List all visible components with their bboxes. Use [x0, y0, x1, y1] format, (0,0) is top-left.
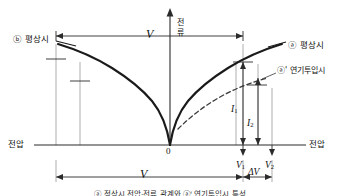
y-axis-label-char-2: 류 [175, 28, 185, 38]
curve-left-normal [58, 44, 170, 145]
bottom-v-dimension-arrow [56, 160, 243, 182]
curve-right-normal [170, 44, 282, 145]
curve-label-left-normal: ⓑ 평상시 [13, 35, 49, 44]
figure-caption: ⓐ 정상시 전압·전류 관계와 ⓐ' 연기투입시 특성 [0, 188, 340, 196]
tick-label-v1-sub: 1 [242, 163, 245, 170]
x-axis-label-voltage-left: 전압 [8, 140, 24, 149]
dimension-label-delta-v: ΔV [248, 168, 259, 178]
vi-characteristic-figure: 전 류 전압 전압 0 ⓑ 평상시 ⓐ 평상시 ⓐ' 연기투입시 V V ΔV … [0, 0, 340, 196]
guide-lines [56, 44, 272, 145]
smoke-label-leader [262, 73, 276, 79]
dimension-label-i2-sub: 2 [250, 121, 253, 128]
figure-canvas [0, 0, 340, 196]
x-axis-label-voltage-right: 전압 [309, 140, 325, 149]
y-axis-label-char-1: 전 [175, 18, 185, 28]
dimension-label-i1: I1 [231, 99, 237, 115]
curve-label-right-smoke: ⓐ' 연기투입시 [277, 67, 325, 75]
dimension-label-i2: I2 [247, 113, 253, 129]
y-axis-arrowhead [167, 8, 174, 17]
left-tick-marks [46, 59, 90, 81]
dimension-label-i1-sub: 1 [234, 107, 237, 114]
curve-label-right-normal: ⓐ 평상시 [288, 41, 324, 50]
x-axis-ticks [243, 145, 272, 151]
dimension-label-v-top: V [146, 28, 153, 40]
tick-label-v1: V1 [236, 155, 245, 171]
i2-dimension-arrow [255, 78, 261, 145]
tick-label-v2-sub: 2 [271, 163, 274, 170]
curve-right-smoke-dashed [178, 78, 268, 129]
tick-label-v2: V2 [265, 155, 274, 171]
i1-dimension-arrow [240, 62, 246, 145]
right-tick-marks [233, 62, 267, 85]
y-axis-label-current: 전 류 [175, 18, 185, 37]
origin-label: 0 [166, 147, 171, 156]
dimension-label-v-bottom: V [140, 168, 147, 180]
